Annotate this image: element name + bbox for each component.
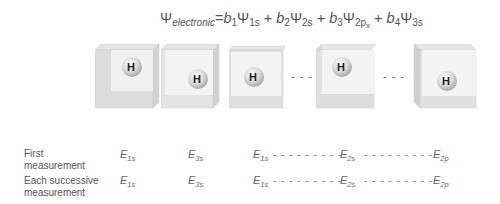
psi-subscript: electronic xyxy=(172,17,215,28)
box-atom-1: H xyxy=(95,44,163,112)
atom-label: H xyxy=(442,75,450,87)
atom-label: H xyxy=(337,61,345,73)
energy-sub: 3s xyxy=(195,180,203,189)
row-label-each-successive: Each successive measurement xyxy=(24,175,98,199)
psi-sub-x: x xyxy=(366,21,370,30)
energy-sub: 2p xyxy=(440,154,448,163)
atom-label: H xyxy=(127,61,135,73)
psi: Ψ xyxy=(343,10,355,26)
energy-sub: 1s xyxy=(260,180,268,189)
box-3d-icon xyxy=(316,44,380,112)
energy-value: E1s xyxy=(120,148,135,163)
label-line: First xyxy=(24,148,85,160)
box-atom-2: H xyxy=(161,44,223,112)
dash-connector: - - - - - - - - - xyxy=(364,149,433,160)
wavefunction-equation: Ψelectronic=b1Ψ1s + b2Ψ2s + b3Ψ2px + b4Ψ… xyxy=(160,10,423,30)
psi-symbol: Ψ xyxy=(160,10,172,26)
energy-value: E1s xyxy=(253,148,268,163)
label-line: Each successive xyxy=(24,175,98,187)
energy-value: E1s xyxy=(120,174,135,189)
dash-connector: - - - - - - - - - xyxy=(273,175,342,186)
ellipsis-1: - - - xyxy=(291,70,313,82)
atom-label: H xyxy=(249,71,257,83)
energy-value: E1s xyxy=(253,174,268,189)
energy-sub: 2s xyxy=(347,180,355,189)
label-line: measurement xyxy=(24,187,98,199)
psi-sub: 1s xyxy=(249,17,260,28)
dash-connector: - - - - - - - - - xyxy=(273,149,342,160)
box-atom-5: H xyxy=(412,44,478,112)
energy-sub: 1s xyxy=(127,154,135,163)
energy-value: E3s xyxy=(188,148,203,163)
psi: Ψ xyxy=(400,10,412,26)
psi-sub: 2s xyxy=(302,17,313,28)
energy-sub: 3s xyxy=(195,154,203,163)
box-atom-3: H xyxy=(229,44,289,112)
energy-value: E2s xyxy=(340,174,355,189)
dash-connector: - - - - - - - - - xyxy=(364,175,433,186)
coef: b xyxy=(329,10,337,26)
psi-sub: 3s xyxy=(412,17,423,28)
energy-value: E2p xyxy=(433,148,449,163)
energy-sub: 2s xyxy=(347,154,355,163)
box-3d-icon xyxy=(229,44,289,112)
energy-sub: 2p xyxy=(440,180,448,189)
energy-sub: 1s xyxy=(260,154,268,163)
coef: b xyxy=(387,10,395,26)
ellipsis-2: - - - xyxy=(383,70,405,82)
atom-label: H xyxy=(193,73,201,85)
label-line: measurement xyxy=(24,160,85,172)
psi-sub: 2p xyxy=(355,17,366,28)
box-3d-icon xyxy=(95,44,163,112)
plus: + xyxy=(317,10,325,26)
plus: + xyxy=(374,10,382,26)
psi: Ψ xyxy=(237,10,249,26)
row-label-first: First measurement xyxy=(24,148,85,172)
energy-value: E2p xyxy=(433,174,449,189)
box-3d-icon xyxy=(161,44,223,112)
plus: + xyxy=(264,10,272,26)
psi: Ψ xyxy=(290,10,302,26)
box-atom-4: H xyxy=(316,44,380,112)
energy-value: E2s xyxy=(340,148,355,163)
energy-value: E3s xyxy=(188,174,203,189)
energy-sub: 1s xyxy=(127,180,135,189)
